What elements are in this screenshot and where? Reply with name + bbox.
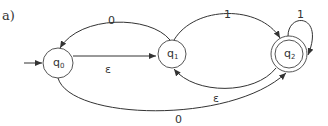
- edge-q1-q0: [60, 22, 170, 48]
- edge-q2-q1: [174, 68, 276, 88]
- state-q2-accepting: q2: [271, 36, 307, 72]
- edge-label: ε: [213, 92, 219, 105]
- edge-label: 0: [175, 113, 182, 126]
- edge-q0-q2: [58, 73, 286, 111]
- edge-label: ε: [105, 63, 111, 76]
- edge-label: 1: [297, 8, 304, 21]
- nfa-diagram: a) q0 q1 q2 0 ε 1 1 ε 0: [0, 0, 328, 126]
- edge-label: 0: [108, 14, 115, 27]
- edge-label: 1: [224, 8, 231, 21]
- panel-label: a): [2, 8, 15, 23]
- state-q1: q1: [158, 40, 186, 68]
- state-q0: q0: [43, 48, 73, 78]
